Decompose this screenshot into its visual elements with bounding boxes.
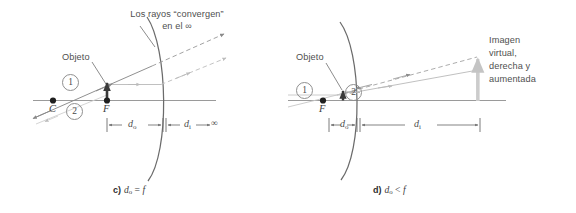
caption-c-label: c) xyxy=(113,185,121,195)
image-note-line1: Imagen xyxy=(489,35,520,46)
ray-number-1-c: 1 xyxy=(62,74,79,91)
image-note-line4: aumentada xyxy=(489,74,536,85)
ray-1-arrow-d xyxy=(378,86,392,88)
object-leader-line-c xyxy=(92,62,106,84)
ray-2-incident-arrow-c xyxy=(96,84,112,91)
dim-do-subscript-c: o xyxy=(133,123,137,131)
panel-d-graphics xyxy=(288,22,506,180)
center-of-curvature-label-c: C xyxy=(49,103,56,114)
ray-1-reflected-arrow-c xyxy=(176,73,190,79)
caption-c-relation: = xyxy=(132,184,142,195)
dim-label-di-d: di xyxy=(414,118,421,131)
caption-d-f: f xyxy=(403,184,406,195)
caption-c-f: f xyxy=(142,184,145,195)
panel-c-graphics xyxy=(33,17,226,181)
ray-1-reflected-c xyxy=(161,58,226,85)
caption-d-relation: < xyxy=(393,184,403,195)
caption-d-label: d) xyxy=(373,185,382,195)
concave-mirror-c xyxy=(147,17,164,181)
dim-label-di-c: di xyxy=(184,118,191,131)
ray-2-reflected-c xyxy=(152,34,224,66)
dim-di-infinity-c: ∞ xyxy=(211,118,218,128)
object-label-c: Objeto xyxy=(62,52,90,63)
ray-number-2-c: 2 xyxy=(66,103,83,120)
focal-point-label-c: F xyxy=(103,103,109,114)
focal-point-label-d: F xyxy=(319,103,325,114)
figure-vector-layer xyxy=(0,0,576,213)
object-leader-line-d xyxy=(326,63,342,90)
image-note-line3: derecha y xyxy=(489,61,530,72)
dim-di-subscript-d: i xyxy=(419,123,421,131)
dim-label-do-d: do xyxy=(340,118,349,131)
ray-number-2-d: 2 xyxy=(345,84,362,101)
ray-2-tail-arrow-c xyxy=(33,111,50,119)
ray-number-1-d: 1 xyxy=(296,82,313,99)
object-label-d: Objeto xyxy=(296,52,324,63)
image-note-line2: virtual, xyxy=(489,48,517,59)
converge-note-line2: en el ∞ xyxy=(112,21,242,32)
ray-2-virtual-arrow-d xyxy=(393,75,410,80)
optics-figure: Los rayos “convergen” en el ∞ Objeto 1 2… xyxy=(0,0,576,213)
dim-label-do-c: do xyxy=(128,118,137,131)
ray-aux-arrow-c xyxy=(45,116,58,122)
caption-d: d)do < f xyxy=(373,184,406,195)
caption-c: c)do = f xyxy=(113,184,145,195)
dim-di-subscript-c: i xyxy=(189,123,191,131)
converge-note-line1: Los rayos “convergen” xyxy=(112,9,242,20)
dim-do-subscript-d: o xyxy=(345,123,349,131)
